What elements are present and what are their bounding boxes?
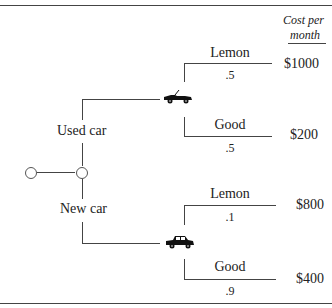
new-lemon-stem (184, 205, 185, 225)
cost-header-underline (288, 43, 326, 44)
new-lemon-cost: $800 (296, 197, 324, 213)
top-rule (0, 5, 332, 6)
used-lemon-line (184, 63, 272, 64)
new-good-line (184, 279, 276, 280)
used-lemon-probability: .5 (226, 68, 235, 83)
used-car-label: Used car (57, 123, 106, 139)
used-good-line (184, 136, 272, 137)
new-car-stem-lower (82, 222, 83, 243)
new-car-label: New car (60, 201, 107, 217)
used-good-cost: $200 (290, 127, 318, 143)
root-decision-node (25, 167, 37, 179)
used-lemon-cost: $1000 (284, 56, 319, 72)
used-car-horizontal (82, 99, 160, 100)
new-good-stem (184, 259, 185, 279)
new-lemon-label: Lemon (210, 186, 250, 202)
new-good-probability: .9 (226, 284, 235, 299)
new-car-horizontal (82, 243, 160, 244)
used-lemon-label: Lemon (210, 45, 250, 61)
used-good-stem (184, 117, 185, 136)
convertible-car-icon (163, 89, 193, 105)
used-car-stem-upper (82, 99, 83, 120)
used-good-probability: .5 (226, 141, 235, 156)
bottom-rule (0, 303, 332, 304)
new-lemon-line (184, 205, 276, 206)
cost-header-line2: month (290, 28, 320, 43)
used-good-label: Good (214, 117, 245, 133)
decision-tree-diagram: Cost per month Used car Lemon .5 $1000 G… (0, 0, 332, 308)
sedan-car-icon (165, 234, 195, 250)
new-car-stem-upper (82, 179, 83, 199)
used-lemon-stem (184, 63, 185, 82)
used-car-stem-lower (82, 143, 83, 166)
new-good-cost: $400 (296, 271, 324, 287)
cost-header-line1: Cost per (283, 13, 324, 28)
root-connector (37, 172, 75, 173)
choice-node (76, 167, 88, 179)
new-good-label: Good (214, 259, 245, 275)
new-lemon-probability: .1 (226, 210, 235, 225)
